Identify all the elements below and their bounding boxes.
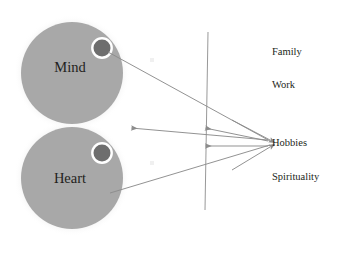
divider-line	[205, 32, 208, 210]
faint-mark-lower	[150, 161, 154, 165]
diagram-svg: Mind Heart Hobbies Family Work Spiritual…	[0, 0, 344, 253]
mind-inner-dot[interactable]	[94, 40, 111, 57]
heart-label: Heart	[54, 170, 86, 186]
mind-label: Mind	[54, 59, 86, 75]
faint-marks-group	[150, 58, 154, 165]
connector-hub-to-gap-left	[131, 128, 268, 140]
faint-mark-upper	[150, 58, 154, 62]
diagram-canvas: Mind Heart Hobbies Family Work Spiritual…	[0, 0, 344, 253]
family-label: Family	[272, 46, 303, 57]
connector-lines-group	[108, 52, 270, 193]
work-label: Work	[272, 79, 296, 90]
connector-hub-to-heart-inner	[110, 145, 270, 193]
spirituality-label: Spirituality	[272, 171, 320, 182]
heart-inner-dot[interactable]	[94, 145, 111, 162]
hobbies-label: Hobbies	[272, 137, 307, 148]
